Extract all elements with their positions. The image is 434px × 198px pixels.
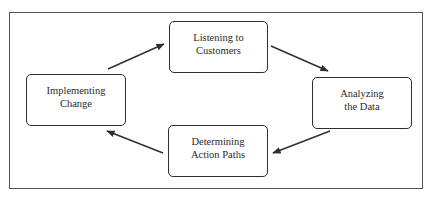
node-label-line: the Data [344,100,379,113]
node-implementing-change: Implementing Change [26,74,126,126]
node-label-line: Listening to [193,31,243,44]
node-listening-to-customers: Listening to Customers [169,21,268,73]
node-determining-action-paths: Determining Action Paths [168,125,268,177]
node-label-line: Analyzing [340,87,384,100]
node-label-line: Implementing [47,84,106,97]
node-label-line: Action Paths [191,148,245,161]
node-analyzing-the-data: Analyzing the Data [312,77,412,129]
node-label-line: Determining [191,135,244,148]
node-label-line: Change [60,97,92,110]
node-label-line: Customers [196,44,241,57]
